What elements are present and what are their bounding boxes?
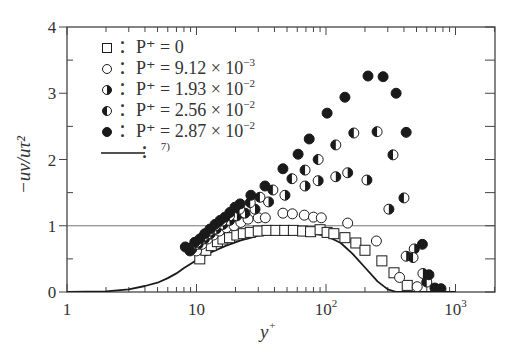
marker-circle-left-half-filled (300, 165, 310, 175)
marker-square-open (306, 227, 316, 237)
legend-label: ：P⁺ = 1.93 × 10−2 (118, 77, 255, 99)
y-axis-tick-labels: 01234 (48, 18, 57, 302)
marker-circle-filled (322, 108, 332, 118)
legend-item: ： 7) (101, 140, 170, 162)
marker-circle-left-half-filled (349, 128, 359, 138)
y-axis-title: −uv/uτ² (13, 136, 34, 194)
legend-item: ：P⁺ = 0 (103, 37, 184, 57)
marker-circle-filled (293, 149, 303, 159)
marker-circle-left-half-filled (331, 140, 341, 150)
marker-circle-open (299, 210, 309, 220)
reference-curve (67, 232, 456, 292)
y-axis-title-text: −uv/uτ² (13, 136, 34, 194)
marker-circle-left-half-filled (399, 193, 409, 203)
x-tick-label: 102 (315, 297, 338, 319)
marker-circle-filled (246, 190, 256, 200)
marker-circle-filled (278, 164, 288, 174)
marker-circle-left-half-filled (255, 192, 265, 202)
series-square-open (195, 225, 412, 291)
marker-circle-filled (401, 127, 411, 137)
legend-label: ：P⁺ = 9.12 × 10−3 (118, 56, 256, 78)
legend-label: ：P⁺ = 2.56 × 10−2 (118, 98, 255, 120)
marker-square-open (402, 280, 412, 290)
marker-circle-left-half-filled (287, 174, 297, 184)
marker-circle-left-half-filled (388, 150, 398, 160)
marker-circle-open (371, 236, 381, 246)
marker-circle-filled (260, 181, 270, 191)
marker-circle-left-half-filled (408, 253, 418, 263)
marker-square-open (360, 245, 370, 255)
marker-circle-open (103, 65, 112, 74)
marker-square-open (351, 238, 361, 248)
marker-square-open (288, 225, 298, 235)
marker-circle-open (343, 218, 353, 228)
marker-square-open (377, 256, 387, 266)
legend-item: ：P⁺ = 1.93 × 10−2 (103, 77, 256, 99)
x-axis-title-text: y+ (258, 319, 276, 342)
marker-circle-open (395, 272, 405, 282)
marker-circle-left-half-filled (372, 127, 382, 137)
marker-circle-filled (235, 199, 245, 209)
legend: ：P⁺ = 0：P⁺ = 9.12 × 10−3：P⁺ = 1.93 × 10−… (101, 37, 256, 162)
y-tick-label: 4 (48, 18, 57, 37)
x-axis-tick-labels: 110102103 (63, 297, 468, 319)
marker-circle-right-half-filled (343, 168, 353, 178)
x-axis-title: y+ (258, 319, 276, 342)
marker-circle-open (316, 213, 326, 223)
legend-item: ：P⁺ = 2.87 × 10−2 (103, 119, 256, 141)
y-tick-label: 2 (48, 151, 57, 170)
marker-circle-open (287, 209, 297, 219)
marker-square-open (329, 229, 339, 239)
marker-circle-right-half-filled (280, 190, 290, 200)
marker-circle-open (260, 213, 270, 223)
marker-circle-filled (304, 134, 314, 144)
marker-circle-right-half-filled (384, 204, 394, 214)
marker-circle-open (278, 208, 288, 218)
legend-item: ：P⁺ = 2.56 × 10−2 (103, 98, 256, 120)
marker-circle-left-half-filled (103, 107, 112, 116)
x-tick-label: 10 (188, 300, 205, 319)
x-tick-label: 1 (63, 300, 72, 319)
marker-square-open (340, 233, 350, 243)
marker-circle-right-half-filled (362, 175, 372, 185)
x-tick-label: 103 (444, 297, 467, 319)
legend-label: ： 7) (140, 140, 170, 162)
marker-circle-filled (378, 72, 388, 82)
marker-circle-filled (103, 128, 112, 137)
y-tick-label: 1 (48, 217, 57, 236)
marker-circle-filled (391, 88, 401, 98)
marker-circle-right-half-filled (103, 86, 112, 95)
marker-circle-open (412, 282, 422, 292)
marker-square-open (103, 44, 112, 53)
legend-label: ：P⁺ = 0 (118, 37, 184, 57)
marker-circle-filled (363, 71, 373, 81)
marker-circle-filled (340, 92, 350, 102)
marker-circle-right-half-filled (331, 172, 341, 182)
chart: 110102103 01234 y+ −uv/uτ² ：P⁺ = 0：P⁺ = … (0, 0, 514, 357)
marker-circle-filled (424, 270, 434, 280)
y-tick-label: 0 (48, 283, 57, 302)
legend-label: ：P⁺ = 2.87 × 10−2 (118, 119, 255, 141)
series-circle-left-half-filled (186, 127, 432, 287)
marker-circle-left-half-filled (313, 155, 323, 165)
marker-circle-right-half-filled (313, 176, 323, 186)
legend-item: ：P⁺ = 9.12 × 10−3 (103, 56, 256, 78)
marker-circle-right-half-filled (300, 181, 310, 191)
marker-circle-filled (417, 239, 427, 249)
y-tick-label: 3 (48, 84, 57, 103)
